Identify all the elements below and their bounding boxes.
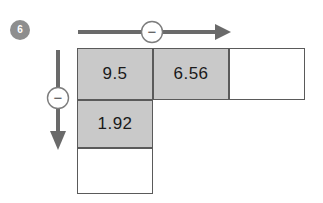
vertical-arrow-head xyxy=(50,131,66,150)
vertical-minus-icon: − xyxy=(54,89,63,106)
grid-cell-r2c1[interactable]: 1.92 xyxy=(77,100,153,148)
worksheet-canvas: 6 9.5 6.56 1.92 − − xyxy=(0,0,323,203)
operator-arrows-overlay: − − xyxy=(0,0,323,203)
vertical-minus-circle xyxy=(48,88,69,109)
horizontal-minus-circle xyxy=(142,22,163,43)
exercise-number-badge: 6 xyxy=(10,20,30,40)
grid-cell-r3c1[interactable] xyxy=(77,148,153,194)
grid-cell-r1c1[interactable]: 9.5 xyxy=(77,48,153,100)
horizontal-minus-icon: − xyxy=(148,23,157,40)
grid-cell-r1c2[interactable]: 6.56 xyxy=(153,48,229,100)
horizontal-arrow-head xyxy=(215,24,231,40)
grid-cell-r1c3[interactable] xyxy=(229,48,305,100)
